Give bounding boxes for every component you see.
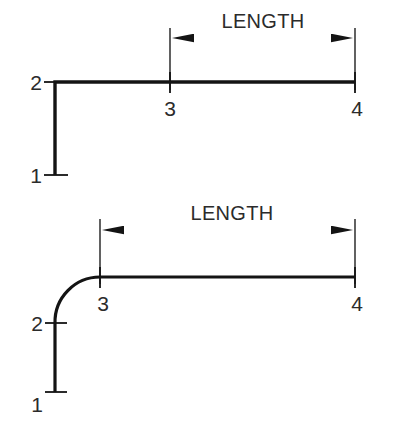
point-label-4-top: 4 xyxy=(351,97,363,120)
point-label-1-bottom: 1 xyxy=(31,393,43,416)
point-label-1-top: 1 xyxy=(30,164,42,187)
point-label-2-bottom: 2 xyxy=(31,312,43,335)
point-label-3-top: 3 xyxy=(164,97,176,120)
point-label-4-bottom: 4 xyxy=(351,292,363,315)
dimension-label-length-top: LENGTH xyxy=(222,10,305,32)
figure-sharp-corner: LENGTH 2 1 3 4 xyxy=(30,10,363,187)
point-label-2-top: 2 xyxy=(30,71,42,94)
cad-diagram-root: LENGTH 2 1 3 4 LENGTH xyxy=(0,0,399,438)
figure-filleted-corner: LENGTH 2 1 3 4 xyxy=(31,202,363,416)
cad-drawing-canvas: LENGTH 2 1 3 4 LENGTH xyxy=(0,0,399,438)
dimension-label-length-bottom: LENGTH xyxy=(191,202,274,224)
profile-polyline-sharp xyxy=(55,82,355,175)
point-label-3-bottom: 3 xyxy=(97,292,109,315)
